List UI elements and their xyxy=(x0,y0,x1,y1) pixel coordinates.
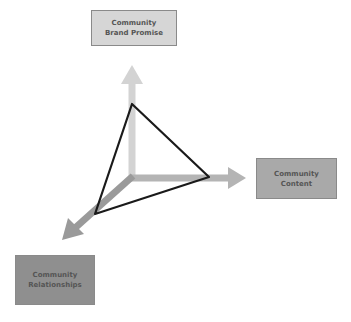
box-community-content: Community Content xyxy=(256,158,337,199)
box-community-brand-promise: Community Brand Promise xyxy=(91,10,177,46)
up-axis-arrow xyxy=(121,65,143,180)
box-right-line1: Community xyxy=(274,169,319,179)
right-axis-arrow xyxy=(130,167,246,189)
box-top-line2: Brand Promise xyxy=(105,28,163,38)
box-community-relationships: Community Relationships xyxy=(15,255,95,305)
box-top-line1: Community xyxy=(105,18,163,28)
box-bottom-left-line1: Community xyxy=(28,270,82,280)
box-right-line2: Content xyxy=(274,179,319,189)
box-bottom-left-line2: Relationships xyxy=(28,280,82,290)
